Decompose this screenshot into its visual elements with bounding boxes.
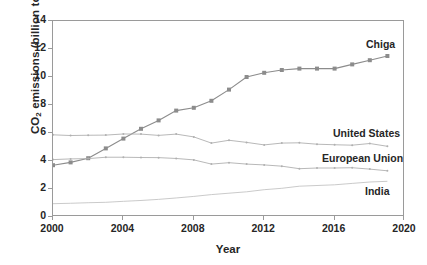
co2-emissions-line-chart: CO2 emissions (billion tons) 14121086420… bbox=[0, 0, 427, 265]
y-tick-2: 2 bbox=[16, 181, 46, 193]
data-point bbox=[316, 143, 318, 145]
series-chiga bbox=[53, 54, 389, 167]
series-india bbox=[53, 181, 387, 203]
data-point bbox=[70, 158, 72, 160]
data-point bbox=[121, 137, 125, 141]
y-axis-title-subscript: 2 bbox=[34, 112, 43, 117]
x-tick-2004: 2004 bbox=[100, 222, 144, 234]
data-point bbox=[174, 109, 178, 113]
x-tick-2016: 2016 bbox=[312, 222, 356, 234]
data-point bbox=[316, 167, 318, 169]
data-point bbox=[350, 62, 354, 66]
y-tick-14: 14 bbox=[16, 13, 46, 25]
x-axis-title: Year bbox=[52, 243, 404, 255]
data-point bbox=[53, 159, 54, 161]
data-point bbox=[246, 163, 248, 165]
data-point bbox=[87, 134, 89, 136]
x-tick-2008: 2008 bbox=[171, 222, 215, 234]
data-point bbox=[351, 144, 353, 146]
plot-area bbox=[52, 20, 404, 216]
data-point bbox=[369, 143, 371, 145]
series-label-united-states: United States bbox=[333, 127, 400, 139]
y-axis-title: CO2 emissions (billion tons) bbox=[29, 0, 41, 171]
data-point bbox=[280, 68, 284, 72]
data-point bbox=[351, 167, 353, 169]
data-point bbox=[298, 168, 300, 170]
data-point bbox=[140, 133, 142, 135]
data-point bbox=[315, 67, 319, 71]
y-tick-12: 12 bbox=[16, 41, 46, 53]
data-point bbox=[175, 157, 177, 159]
data-point bbox=[263, 144, 265, 146]
data-point bbox=[298, 142, 300, 144]
series-label-european-union: European Union bbox=[322, 152, 403, 164]
data-point bbox=[386, 145, 388, 147]
data-point bbox=[158, 157, 160, 159]
data-point bbox=[369, 168, 371, 170]
data-point bbox=[104, 146, 108, 150]
data-point bbox=[139, 127, 143, 131]
series-label-india: India bbox=[365, 185, 390, 197]
data-point bbox=[385, 54, 389, 58]
data-point bbox=[334, 144, 336, 146]
series-line bbox=[53, 56, 387, 165]
series-canvas bbox=[53, 21, 405, 217]
data-point bbox=[333, 67, 337, 71]
data-point bbox=[281, 165, 283, 167]
data-point bbox=[227, 88, 231, 92]
y-tick-8: 8 bbox=[16, 97, 46, 109]
data-point bbox=[175, 133, 177, 135]
data-point bbox=[87, 158, 89, 160]
y-tick-0: 0 bbox=[16, 209, 46, 221]
data-point bbox=[193, 136, 195, 138]
data-point bbox=[297, 67, 301, 71]
data-point bbox=[157, 118, 161, 122]
series-label-china: Chiga bbox=[366, 38, 395, 50]
data-point bbox=[210, 142, 212, 144]
data-point bbox=[228, 139, 230, 141]
data-point bbox=[246, 141, 248, 143]
y-tick-4: 4 bbox=[16, 153, 46, 165]
data-point bbox=[70, 135, 72, 137]
x-tick-2020: 2020 bbox=[382, 222, 426, 234]
data-point bbox=[209, 99, 213, 103]
data-point bbox=[122, 156, 124, 158]
data-point bbox=[158, 134, 160, 136]
data-point bbox=[245, 75, 249, 79]
data-point bbox=[140, 157, 142, 159]
data-point bbox=[386, 170, 388, 172]
x-tick-2000: 2000 bbox=[30, 222, 74, 234]
data-point bbox=[122, 133, 124, 135]
data-point bbox=[193, 159, 195, 161]
x-tick-2012: 2012 bbox=[241, 222, 285, 234]
data-point bbox=[53, 163, 55, 167]
data-point bbox=[263, 164, 265, 166]
data-point bbox=[192, 106, 196, 110]
data-point bbox=[368, 58, 372, 62]
data-point bbox=[69, 160, 73, 164]
data-point bbox=[53, 134, 54, 136]
data-point bbox=[281, 142, 283, 144]
data-point bbox=[105, 134, 107, 136]
data-point bbox=[105, 156, 107, 158]
data-point bbox=[334, 167, 336, 169]
series-line bbox=[53, 181, 387, 203]
y-tick-6: 6 bbox=[16, 125, 46, 137]
data-point bbox=[210, 163, 212, 165]
data-point bbox=[262, 71, 266, 75]
data-point bbox=[228, 162, 230, 164]
y-tick-10: 10 bbox=[16, 69, 46, 81]
